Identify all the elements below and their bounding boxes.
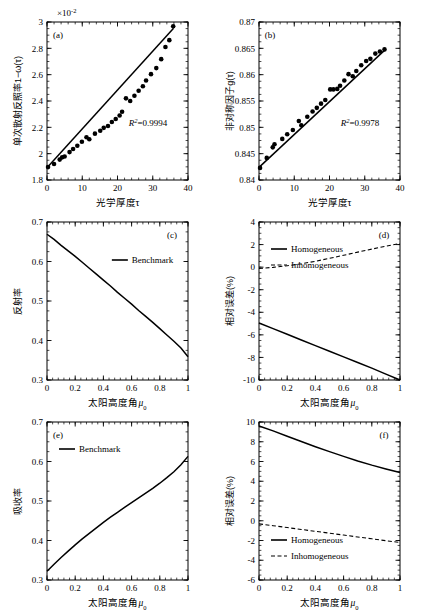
- data-point-a: [171, 24, 176, 29]
- data-point-a: [128, 99, 133, 104]
- data-point-a: [154, 66, 159, 71]
- x-tick-label-f: 0.4: [310, 583, 322, 593]
- data-point-a: [75, 143, 80, 148]
- y-axis-title-b: 非对称因子g(τ): [224, 71, 235, 131]
- x-tick-label-f: 0: [257, 583, 262, 593]
- data-point-b: [310, 109, 315, 114]
- y-tick-label-d: -10: [243, 375, 255, 385]
- x-tick-label-f: 0.2: [282, 583, 293, 593]
- x-tick-label-e: 1: [186, 583, 191, 593]
- y-tick-label-c: 0.5: [32, 296, 44, 306]
- legend-label-c-0: Benchmark: [132, 255, 174, 265]
- x-tick-label-a: 10: [78, 183, 88, 193]
- y-tick-label-e: 0.5: [32, 496, 44, 506]
- x-tick-label-d: 0.4: [310, 383, 322, 393]
- y-tick-label-f: -4: [248, 555, 256, 565]
- y-tick-label-d: -2: [248, 285, 256, 295]
- legend-label-d-1: Inhomogeneous: [291, 260, 349, 270]
- y-tick-label-f: 0: [251, 516, 256, 526]
- panel-tag-e: (e): [53, 430, 63, 440]
- panel-c: 00.20.40.60.810.30.40.50.60.7(c)Benchmar…: [12, 217, 190, 410]
- x-tick-label-c: 0.4: [98, 383, 110, 393]
- x-tick-label-f: 0.8: [366, 583, 378, 593]
- data-point-a: [132, 93, 137, 98]
- y-tick-label-e: 0.6: [32, 457, 44, 467]
- y-tick-label-d: -6: [248, 330, 256, 340]
- data-point-b: [315, 106, 320, 111]
- plot-frame-c: [47, 222, 188, 380]
- x-tick-label-b: 40: [396, 183, 406, 193]
- x-tick-label-d: 0.8: [366, 383, 378, 393]
- x-tick-label-b: 0: [257, 183, 262, 193]
- panel-tag-a: (a): [53, 30, 63, 40]
- r-squared-annotation-a: R2=0.9994: [128, 117, 168, 129]
- y-tick-label-d: 4: [251, 217, 256, 227]
- data-point-b: [354, 69, 359, 74]
- x-tick-label-a: 0: [45, 183, 50, 193]
- x-tick-label-f: 0.6: [338, 583, 350, 593]
- data-point-b: [346, 72, 351, 77]
- data-point-b: [297, 119, 302, 124]
- panel-a: 0102030401.822.22.42.62.83(a)R2=0.9994×1…: [12, 7, 193, 209]
- x-tick-label-e: 0.4: [98, 583, 110, 593]
- y-tick-label-a: 2.6: [32, 70, 44, 80]
- data-point-a: [67, 150, 72, 155]
- x-tick-label-d: 0: [257, 383, 262, 393]
- x-tick-label-e: 0.8: [154, 583, 166, 593]
- y-tick-label-d: 2: [251, 240, 256, 250]
- y-tick-label-f: 6: [251, 457, 256, 467]
- data-point-a: [93, 131, 98, 136]
- y-tick-label-b: 0.855: [235, 96, 256, 106]
- y-axis-title-d: 相对误差(%): [224, 276, 235, 326]
- y-tick-label-a: 2.4: [32, 96, 44, 106]
- x-tick-label-d: 1: [398, 383, 403, 393]
- x-tick-label-a: 20: [113, 183, 123, 193]
- data-point-a: [113, 117, 118, 122]
- data-point-b: [319, 101, 324, 106]
- data-point-b: [305, 115, 310, 120]
- panel-tag-f: (f): [380, 430, 389, 440]
- data-point-a: [120, 109, 125, 114]
- x-tick-label-c: 0.6: [126, 383, 138, 393]
- y-tick-label-f: 10: [246, 417, 256, 427]
- y-axis-title-a: 单次散射反照率1−ω(τ): [12, 56, 23, 146]
- data-point-a: [98, 128, 103, 133]
- y-tick-label-f: -2: [248, 536, 256, 546]
- panel-tag-d: (d): [379, 230, 390, 240]
- data-point-b: [323, 98, 328, 103]
- x-tick-label-c: 0.8: [154, 383, 166, 393]
- panel-e: 00.20.40.60.810.30.40.50.60.7(e)Benchmar…: [12, 417, 190, 610]
- y-tick-label-f: 4: [251, 476, 256, 486]
- x-tick-label-d: 0.6: [338, 383, 350, 393]
- x-tick-label-c: 0.2: [70, 383, 81, 393]
- data-point-b: [342, 78, 347, 83]
- y-tick-label-e: 0.4: [32, 536, 44, 546]
- x-tick-label-b: 30: [360, 183, 370, 193]
- x-tick-label-e: 0.6: [126, 583, 138, 593]
- data-point-a: [106, 124, 111, 129]
- y-tick-label-e: 0.7: [32, 417, 44, 427]
- r-squared-annotation-b: R2=0.9978: [340, 117, 380, 129]
- data-point-a: [87, 137, 92, 142]
- x-tick-label-e: 0: [45, 583, 50, 593]
- data-point-a: [62, 154, 67, 159]
- x-tick-label-c: 0: [45, 383, 50, 393]
- x-axis-title-c: 太阳高度角μ0: [88, 397, 146, 411]
- data-point-b: [359, 63, 364, 68]
- data-point-a: [136, 88, 141, 93]
- data-point-a: [149, 72, 154, 77]
- y-tick-label-f: 8: [251, 437, 256, 447]
- x-tick-label-a: 40: [184, 183, 194, 193]
- y-tick-label-a: 1.8: [32, 175, 44, 185]
- data-point-a: [110, 120, 115, 125]
- y-tick-label-a: 2.2: [32, 123, 43, 133]
- data-point-a: [144, 78, 149, 83]
- y-tick-label-d: -8: [248, 353, 256, 363]
- y-tick-label-e: 0.3: [32, 575, 44, 585]
- panel-tag-b: (b): [265, 30, 276, 40]
- data-point-b: [373, 51, 378, 56]
- y-tick-label-b: 0.865: [235, 44, 256, 54]
- legend-label-e-0: Benchmark: [79, 444, 121, 454]
- y-tick-label-d: -4: [248, 307, 256, 317]
- y-tick-label-a: 2: [39, 149, 44, 159]
